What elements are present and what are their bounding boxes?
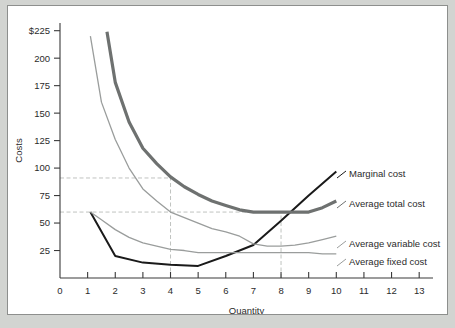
curve-marginal-cost [90, 171, 336, 266]
y-tick-label: 125 [34, 135, 50, 146]
y-tick-label: 150 [34, 108, 50, 119]
leader-line-marginal-cost [337, 171, 346, 178]
y-axis-title: Costs [13, 138, 24, 163]
curve-average-variable-cost [90, 36, 336, 246]
x-tick-label: 3 [140, 285, 145, 296]
x-axis-title: Quantity [229, 305, 265, 314]
series-label-average-variable-cost: Average variable cost [349, 238, 441, 249]
series-label-average-fixed-cost: Average fixed cost [349, 256, 427, 267]
x-tick-label: 9 [306, 285, 311, 296]
y-axis-ticks-group: 255075100125150175200$225 [29, 25, 60, 256]
chart-page: 012345678910111213 255075100125150175200… [0, 0, 455, 328]
cost-curves-chart: 012345678910111213 255075100125150175200… [8, 6, 447, 314]
leader-line-average-variable-cost [337, 241, 346, 248]
y-tick-label: $225 [29, 25, 50, 36]
series-curves-group [90, 32, 336, 266]
x-tick-label: 2 [113, 285, 118, 296]
reference-lines-group [60, 178, 281, 278]
x-tick-label: 10 [331, 285, 342, 296]
x-axis-ticks-group: 012345678910111213 [57, 272, 424, 296]
y-tick-label: 25 [39, 245, 50, 256]
curve-average-fixed-cost [90, 212, 336, 254]
y-tick-label: 50 [39, 217, 50, 228]
curve-average-total-cost [107, 32, 336, 212]
y-tick-label: 100 [34, 162, 50, 173]
leader-line-average-fixed-cost [337, 259, 346, 266]
series-labels-group: Marginal costAverage total costAverage v… [337, 168, 441, 267]
x-tick-label: 11 [359, 285, 369, 296]
x-tick-label: 5 [195, 285, 200, 296]
x-tick-label: 4 [168, 285, 173, 296]
y-tick-label: 200 [34, 53, 50, 64]
x-tick-label: 6 [223, 285, 228, 296]
x-tick-label: 13 [414, 285, 425, 296]
y-tick-label: 175 [34, 80, 50, 91]
series-label-marginal-cost: Marginal cost [349, 168, 406, 179]
x-tick-label: 7 [251, 285, 256, 296]
y-tick-label: 75 [39, 190, 50, 201]
x-tick-label: 12 [386, 285, 397, 296]
figure-frame: 012345678910111213 255075100125150175200… [7, 5, 448, 315]
leader-line-average-total-cost [337, 201, 346, 208]
series-label-average-total-cost: Average total cost [349, 198, 425, 209]
x-tick-label: 0 [57, 285, 62, 296]
x-tick-label: 1 [85, 285, 90, 296]
x-tick-label: 8 [278, 285, 283, 296]
